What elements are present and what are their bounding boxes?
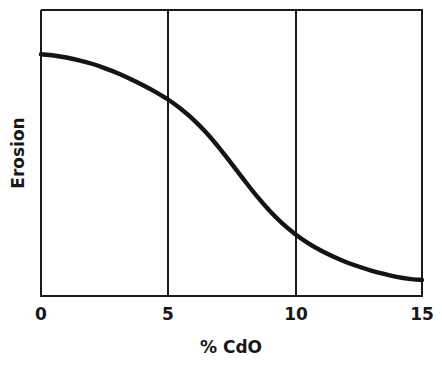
chart-background	[0, 0, 442, 367]
erosion-vs-cdo-chart: 0 5 10 15 % CdO Erosion	[0, 0, 442, 367]
xtick-label-5: 5	[162, 304, 174, 324]
xtick-label-15: 15	[410, 304, 434, 324]
xtick-label-10: 10	[284, 304, 308, 324]
chart-figure: 0 5 10 15 % CdO Erosion	[0, 0, 442, 367]
y-axis-title: Erosion	[8, 117, 28, 188]
xtick-label-0: 0	[35, 304, 47, 324]
x-axis-title: % CdO	[200, 337, 262, 357]
